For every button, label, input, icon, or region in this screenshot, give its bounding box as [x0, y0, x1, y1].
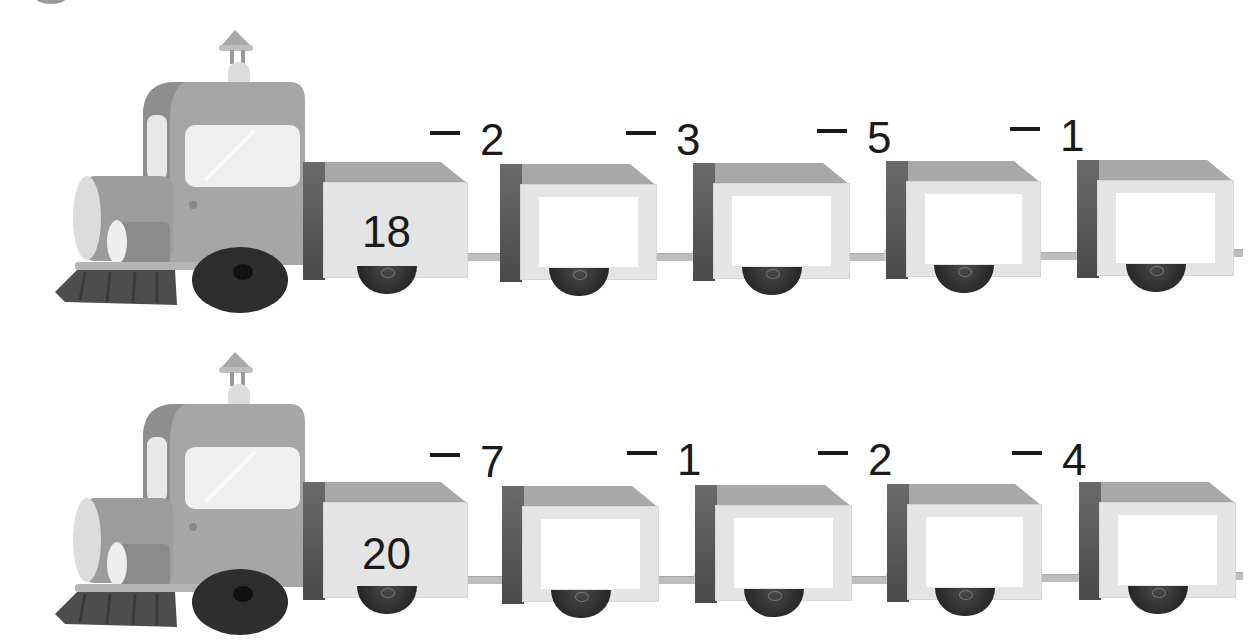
- answer-box[interactable]: [541, 519, 640, 589]
- sweeper-train-engine-icon: [25, 30, 315, 320]
- answer-box[interactable]: [1116, 193, 1215, 263]
- minus-sign: [1012, 451, 1042, 455]
- start-value: 18: [362, 210, 411, 254]
- operation-label: 3: [626, 118, 700, 162]
- car-top: [693, 163, 850, 185]
- answer-box[interactable]: [734, 518, 833, 588]
- coupler: [657, 253, 697, 261]
- car-top: [303, 482, 468, 504]
- train-row-2: 20 7 1 2 4: [0, 322, 1257, 632]
- coupler: [658, 576, 698, 584]
- train-wagon: [886, 161, 1041, 279]
- minus-sign: [1010, 127, 1040, 131]
- minus-sign: [818, 451, 848, 455]
- start-value: 20: [362, 532, 411, 576]
- car-top: [303, 162, 468, 184]
- car-top: [695, 485, 852, 507]
- minus-sign: [817, 129, 847, 133]
- answer-box[interactable]: [1118, 515, 1217, 585]
- train-wagon: [695, 485, 852, 603]
- operation-label: 1: [1010, 114, 1084, 158]
- minus-sign: [626, 131, 656, 135]
- car-top: [1079, 482, 1236, 504]
- answer-box[interactable]: [732, 196, 831, 266]
- coupler: [1233, 249, 1243, 257]
- car-top: [886, 161, 1041, 183]
- car-top: [887, 484, 1042, 506]
- answer-box[interactable]: [539, 197, 638, 267]
- minus-sign: [430, 453, 460, 457]
- operation-label: 2: [430, 118, 504, 162]
- answer-box[interactable]: [925, 194, 1022, 264]
- train-wagon: [887, 484, 1042, 602]
- coupler: [1041, 574, 1081, 582]
- operation-label: 4: [1012, 438, 1086, 482]
- minus-sign: [430, 131, 460, 135]
- operation-label: 5: [817, 116, 891, 160]
- car-top: [502, 486, 659, 508]
- operation-label: 2: [818, 438, 892, 482]
- car-top: [500, 164, 657, 186]
- train-wagon: [1077, 160, 1234, 278]
- operation-label: 7: [430, 440, 504, 484]
- train-wagon: [693, 163, 850, 281]
- train-wagon: [1079, 482, 1236, 600]
- operation-label: 1: [627, 438, 701, 482]
- minus-sign: [627, 451, 657, 455]
- answer-box[interactable]: [926, 517, 1023, 587]
- train-row-1: 18 2 3 5 1: [0, 0, 1257, 310]
- car-top: [1077, 160, 1234, 182]
- coupler: [1040, 252, 1080, 260]
- train-wagon: [500, 164, 657, 282]
- train-wagon: [502, 486, 659, 604]
- sweeper-train-engine-icon: [25, 352, 315, 642]
- coupler: [850, 576, 890, 584]
